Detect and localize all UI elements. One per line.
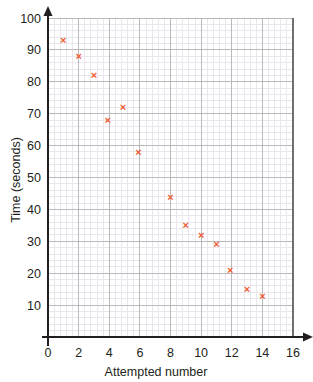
y-tick-label: 100	[20, 12, 41, 26]
data-point: ×	[105, 114, 111, 126]
y-tick-label: 10	[27, 299, 41, 313]
y-axis-tick-labels: 102030405060708090100	[20, 12, 41, 313]
x-tick-label: 14	[255, 346, 269, 360]
data-point: ×	[91, 69, 97, 81]
y-tick-label: 70	[27, 107, 41, 121]
data-point: ×	[198, 229, 204, 241]
y-tick-label: 40	[27, 203, 41, 217]
axis-lines	[42, 6, 313, 346]
x-axis-title: Attempted number	[105, 365, 208, 379]
x-axis-tick-labels: 0246810121416	[45, 346, 300, 360]
data-point: ×	[120, 101, 126, 113]
data-point: ×	[135, 146, 141, 158]
y-tick-label: 60	[27, 139, 41, 153]
x-tick-label: 8	[167, 346, 174, 360]
chart-canvas: 0246810121416 102030405060708090100 ××××…	[0, 0, 313, 382]
y-tick-label: 30	[27, 235, 41, 249]
x-tick-label: 4	[106, 346, 113, 360]
x-tick-label: 6	[136, 346, 143, 360]
data-point: ×	[259, 290, 265, 302]
x-tick-label: 0	[45, 346, 52, 360]
y-tick-label: 80	[27, 75, 41, 89]
x-tick-label: 10	[194, 346, 208, 360]
data-point: ×	[227, 264, 233, 276]
data-point: ×	[60, 34, 66, 46]
x-tick-label: 16	[286, 346, 300, 360]
data-point: ×	[213, 238, 219, 250]
data-point: ×	[183, 219, 189, 231]
y-axis-title: Time (seconds)	[9, 137, 23, 223]
x-tick-label: 2	[75, 346, 82, 360]
data-point: ×	[75, 50, 81, 62]
data-point: ×	[167, 191, 173, 203]
y-tick-label: 50	[27, 171, 41, 185]
x-tick-label: 12	[225, 346, 239, 360]
data-point: ×	[244, 283, 250, 295]
y-tick-label: 20	[27, 267, 41, 281]
y-tick-label: 90	[27, 43, 41, 57]
scatter-chart: 0246810121416 102030405060708090100 ××××…	[0, 0, 313, 382]
